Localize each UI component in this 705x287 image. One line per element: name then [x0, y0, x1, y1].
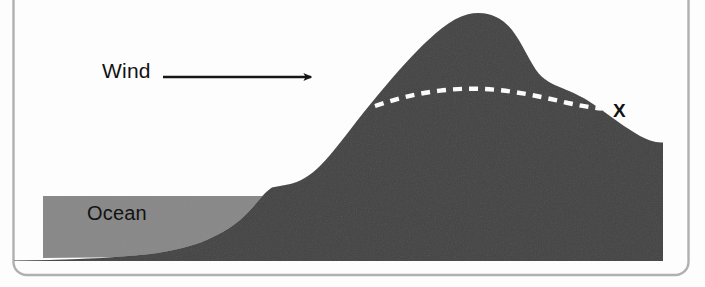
wind-direction-label: Wind — [102, 60, 151, 81]
figure-container: Wind Ocean X — [0, 0, 705, 287]
ocean-label: Ocean — [87, 203, 147, 223]
leeward-point-marker-label: X — [613, 101, 626, 120]
diagram-canvas — [0, 0, 705, 287]
